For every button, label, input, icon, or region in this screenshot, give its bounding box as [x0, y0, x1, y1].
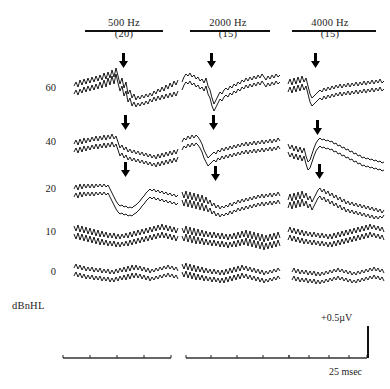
waveform-500hz-60db [72, 64, 180, 114]
evoked-potential-figure: 500 Hz (20) 2000 Hz (15) 4000 Hz (15) 60… [0, 0, 390, 389]
column-header-4000hz: 4000 Hz (15) [290, 17, 370, 39]
level-label-10: 10 [22, 226, 56, 237]
waveform-2000hz-20db [180, 178, 282, 220]
waveform-4000hz-20db [286, 176, 386, 220]
column-header-2000hz: 2000 Hz (15) [188, 17, 268, 39]
column-header-500hz: 500 Hz (20) [84, 17, 164, 39]
waveform-500hz-20db [72, 175, 180, 217]
column-rule-4000hz [292, 30, 376, 32]
waveform-2000hz-10db [180, 216, 282, 250]
waveform-4000hz-40db [286, 130, 386, 174]
column-rule-2000hz [190, 30, 270, 32]
amplitude-scale-label: +0.5µV [321, 312, 352, 323]
column-frequency-label: 500 Hz [84, 17, 164, 28]
level-label-20: 20 [22, 183, 56, 194]
waveform-4000hz-0db [290, 258, 386, 288]
waveform-4000hz-10db [286, 216, 386, 250]
level-label-40: 40 [22, 136, 56, 147]
waveform-2000hz-40db [180, 126, 282, 170]
waveform-500hz-10db [72, 216, 180, 250]
time-scale-label: 25 msec [329, 366, 362, 377]
level-label-0: 0 [22, 266, 56, 277]
intensity-axis-title: dBnHL [12, 300, 45, 311]
column-rule-500hz [85, 30, 163, 32]
time-axis-500hz [62, 352, 172, 362]
amplitude-calibration-bar [367, 326, 369, 358]
waveform-2000hz-60db [180, 64, 282, 114]
level-label-60: 60 [22, 82, 56, 93]
column-frequency-label: 2000 Hz [188, 17, 268, 28]
waveform-2000hz-0db [180, 254, 282, 286]
waveform-4000hz-60db [286, 64, 386, 114]
time-axis-2000hz [185, 352, 290, 362]
time-axis-4000hz [288, 352, 368, 362]
waveform-500hz-0db [72, 256, 180, 286]
column-frequency-label: 4000 Hz [290, 17, 370, 28]
